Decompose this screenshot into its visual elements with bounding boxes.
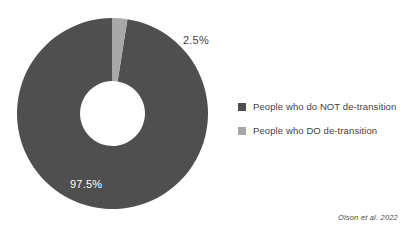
legend-swatch-icon bbox=[238, 127, 246, 135]
legend-item-label: People who do NOT de-transition bbox=[253, 101, 396, 112]
donut-chart-svg bbox=[17, 18, 208, 209]
slice-value-label-major: 97.5% bbox=[70, 178, 102, 190]
chart-figure: 97.5% 2.5% People who do NOT de-transiti… bbox=[0, 0, 408, 234]
donut-chart: 97.5% 2.5% bbox=[17, 18, 208, 209]
donut-slice-group bbox=[17, 18, 208, 209]
legend-item-do-detransition[interactable]: People who DO de-transition bbox=[238, 125, 406, 136]
legend-swatch-icon bbox=[238, 103, 246, 111]
legend-item-not-detransition[interactable]: People who do NOT de-transition bbox=[238, 101, 406, 112]
chart-legend: People who do NOT de-transition People w… bbox=[238, 101, 406, 136]
slice-value-label-minor: 2.5% bbox=[183, 34, 209, 46]
legend-item-label: People who DO de-transition bbox=[253, 125, 377, 136]
chart-source-attribution: Olson et al. 2022 bbox=[338, 213, 398, 222]
